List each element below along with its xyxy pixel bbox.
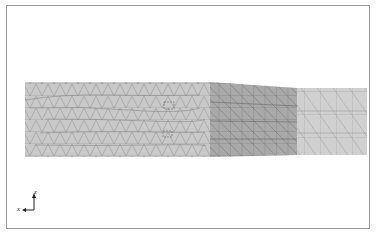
middle-region bbox=[210, 82, 297, 157]
z-axis-label: z bbox=[34, 188, 37, 196]
right-region bbox=[297, 88, 367, 155]
left-region bbox=[25, 82, 210, 157]
x-axis-label: x bbox=[17, 205, 20, 213]
mesh-diagram bbox=[0, 0, 376, 235]
